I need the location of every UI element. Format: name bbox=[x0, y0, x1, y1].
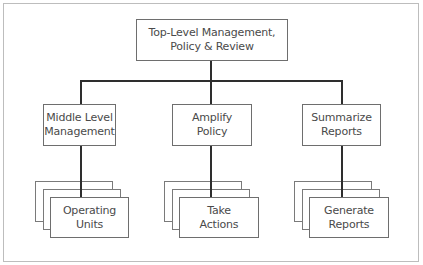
connector-center-lower-overlay bbox=[210, 181, 212, 197]
node-summarize-reports: Summarize Reports bbox=[302, 104, 381, 146]
node-operating-units: Operating Units bbox=[50, 197, 129, 238]
node-middle-level-management: Middle Level Management bbox=[43, 104, 116, 146]
node-amplify-policy: Amplify Policy bbox=[172, 104, 252, 146]
node-label: Summarize Reports bbox=[311, 111, 371, 139]
node-generate-reports: Generate Reports bbox=[309, 197, 389, 238]
node-label: Generate Reports bbox=[324, 204, 374, 232]
connector-root-down bbox=[210, 60, 212, 82]
node-label: Top-Level Management, Policy & Review bbox=[149, 26, 276, 54]
connector-right-lower-overlay bbox=[341, 181, 343, 197]
node-take-actions: Take Actions bbox=[179, 197, 259, 238]
connector-center-down bbox=[210, 80, 212, 105]
node-label: Take Actions bbox=[200, 204, 239, 232]
connector-left-down bbox=[80, 80, 82, 105]
connector-right-down bbox=[341, 80, 343, 105]
node-label: Operating Units bbox=[63, 204, 116, 232]
connector-left-lower-overlay bbox=[80, 181, 82, 197]
node-label: Amplify Policy bbox=[192, 111, 232, 139]
node-label: Middle Level Management bbox=[44, 111, 114, 139]
node-top-level-management: Top-Level Management, Policy & Review bbox=[136, 19, 288, 61]
